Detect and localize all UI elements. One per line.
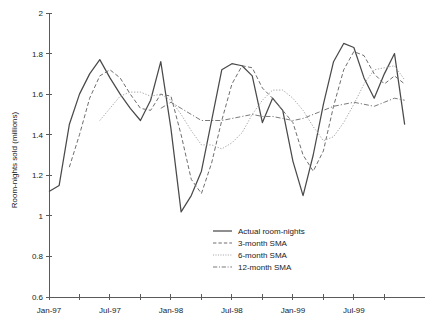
series-line-2 (69, 52, 404, 194)
x-tick-label: Jan-97 (37, 306, 62, 315)
y-tick-label: 1.8 (32, 50, 44, 59)
legend-label-1: Actual room-nights (238, 227, 305, 236)
chart-container: 0.60.811.21.41.61.82 Jan-97Jul-97Jan-98J… (0, 0, 433, 325)
y-tick-label: 1.4 (32, 131, 44, 140)
series-line-1 (49, 43, 405, 211)
y-tick-label: 1 (39, 212, 44, 221)
y-tick-label: 1.2 (32, 171, 44, 180)
x-tick-label: Jan-98 (159, 306, 184, 315)
x-tick-label: Jul-97 (99, 306, 121, 315)
series-layer (49, 43, 405, 211)
series-line-4 (161, 98, 405, 120)
x-tick-label: Jul-99 (343, 306, 365, 315)
x-axis: Jan-97Jul-97Jan-98Jul-98Jan-99Jul-99 (37, 294, 425, 315)
x-tick-label: Jul-98 (221, 306, 243, 315)
x-tick-label: Jan-99 (281, 306, 306, 315)
line-chart: 0.60.811.21.41.61.82 Jan-97Jul-97Jan-98J… (0, 0, 433, 325)
y-tick-label: 0.6 (32, 293, 44, 302)
chart-legend: Actual room-nights3-month SMA6-month SMA… (213, 227, 305, 272)
y-axis: 0.60.811.21.41.61.82 (32, 9, 52, 302)
legend-label-4: 12-month SMA (238, 263, 292, 272)
y-tick-label: 1.6 (32, 90, 44, 99)
y-tick-label: 2 (39, 9, 44, 18)
y-tick-label: 0.8 (32, 252, 44, 261)
y-axis-title: Room-nights sold (millions) (10, 111, 19, 208)
legend-label-3: 6-month SMA (238, 251, 288, 260)
legend-label-2: 3-month SMA (238, 239, 288, 248)
